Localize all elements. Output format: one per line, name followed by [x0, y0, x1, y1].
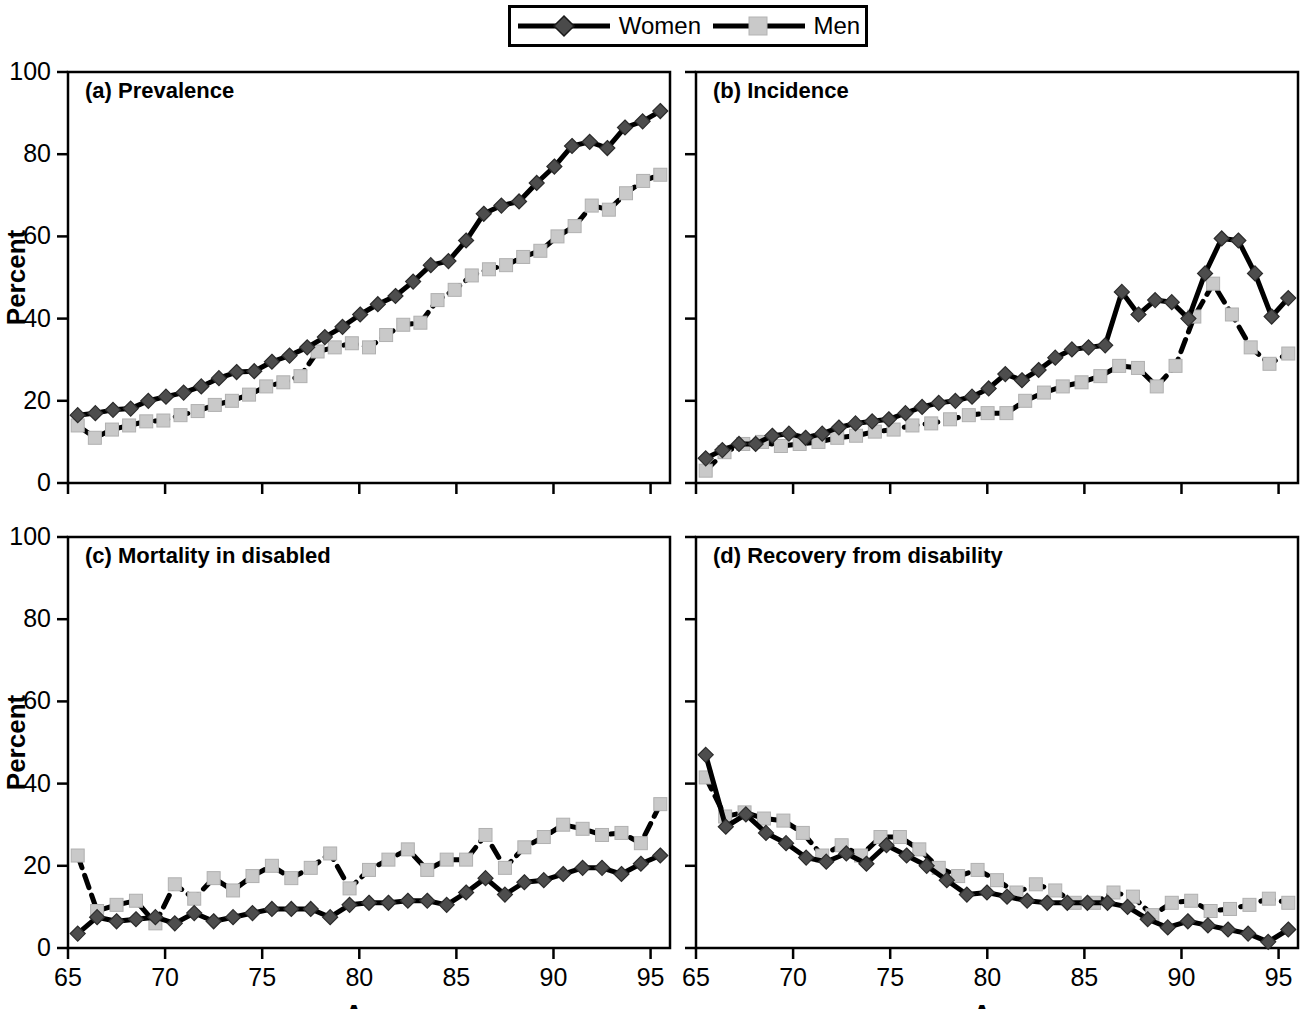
- data-point-marker: [991, 874, 1004, 887]
- data-point-marker: [906, 419, 919, 432]
- data-point-marker: [465, 269, 478, 282]
- data-point-marker: [602, 203, 615, 216]
- x-tick-label: 85: [1070, 963, 1098, 991]
- data-point-marker: [1221, 922, 1236, 937]
- data-point-marker: [796, 826, 809, 839]
- panel-a-plot: 020406080100Percent: [0, 55, 690, 500]
- panel-c-plot: 02040608010065707580859095AgePercent: [0, 520, 690, 1009]
- x-tick-label: 85: [442, 963, 470, 991]
- data-point-marker: [1160, 920, 1175, 935]
- data-point-marker: [282, 348, 297, 363]
- data-point-marker: [1243, 898, 1256, 911]
- data-point-marker: [191, 405, 204, 418]
- data-point-marker: [915, 399, 930, 414]
- data-point-marker: [88, 431, 101, 444]
- data-point-marker: [1165, 896, 1178, 909]
- data-point-marker: [284, 901, 299, 916]
- data-point-marker: [913, 843, 926, 856]
- legend-entry-women: Women: [516, 14, 701, 38]
- panel-d-plot: 65707580859095Age: [628, 520, 1308, 1009]
- data-point-marker: [382, 853, 395, 866]
- data-point-marker: [1000, 407, 1013, 420]
- legend-label-men: Men: [814, 14, 861, 38]
- x-axis-title: Age: [972, 999, 1021, 1009]
- data-point-marker: [157, 414, 170, 427]
- y-tick-label: 80: [23, 139, 51, 167]
- data-point-marker: [1081, 340, 1096, 355]
- data-point-marker: [304, 861, 317, 874]
- data-point-marker: [362, 895, 377, 910]
- data-point-marker: [1180, 914, 1195, 929]
- data-point-marker: [585, 199, 598, 212]
- chart-legend: Women Men: [508, 5, 868, 47]
- x-tick-label: 65: [682, 963, 710, 991]
- data-point-marker: [294, 370, 307, 383]
- data-point-marker: [88, 406, 103, 421]
- data-point-marker: [207, 872, 220, 885]
- data-point-marker: [1185, 894, 1198, 907]
- data-point-marker: [277, 376, 290, 389]
- data-point-marker: [397, 318, 410, 331]
- data-point-marker: [1094, 370, 1107, 383]
- data-point-marker: [925, 417, 938, 430]
- data-point-marker: [363, 341, 376, 354]
- panel-b-title: (b) Incidence: [713, 78, 849, 104]
- x-tick-label: 80: [345, 963, 373, 991]
- data-point-marker: [285, 872, 298, 885]
- data-point-marker: [1282, 896, 1295, 909]
- series-markers-women: [698, 747, 1296, 949]
- data-point-marker: [448, 283, 461, 296]
- data-point-marker: [595, 860, 610, 875]
- data-point-marker: [401, 843, 414, 856]
- panel-c-title: (c) Mortality in disabled: [85, 543, 331, 569]
- data-point-marker: [246, 870, 259, 883]
- panel-d-recovery-from-disability: 65707580859095Age (d) Recovery from disa…: [628, 520, 1308, 1009]
- data-point-marker: [71, 849, 84, 862]
- y-axis-title: Percent: [1, 694, 31, 790]
- data-point-marker: [123, 419, 136, 432]
- data-point-marker: [264, 901, 279, 916]
- data-point-marker: [421, 863, 434, 876]
- data-point-marker: [211, 371, 226, 386]
- x-tick-label: 90: [1168, 963, 1196, 991]
- data-point-marker: [582, 134, 597, 149]
- data-point-marker: [1282, 347, 1295, 360]
- x-tick-label: 95: [1265, 963, 1293, 991]
- data-point-marker: [1150, 380, 1163, 393]
- data-point-marker: [1029, 878, 1042, 891]
- data-point-marker: [893, 831, 906, 844]
- y-tick-label: 20: [23, 386, 51, 414]
- legend-label-women: Women: [619, 14, 701, 38]
- data-point-marker: [1207, 277, 1220, 290]
- data-point-marker: [460, 853, 473, 866]
- data-point-marker: [158, 389, 173, 404]
- data-point-marker: [536, 873, 551, 888]
- x-tick-label: 65: [54, 963, 82, 991]
- data-point-marker: [1019, 394, 1032, 407]
- panel-b-plot: [628, 55, 1308, 500]
- data-point-marker: [557, 818, 570, 831]
- data-point-marker: [944, 413, 957, 426]
- panel-a-prevalence: 020406080100Percent (a) Prevalence: [0, 55, 690, 500]
- data-point-marker: [1200, 918, 1215, 933]
- data-point-marker: [1263, 357, 1276, 370]
- data-point-marker: [551, 230, 564, 243]
- data-point-marker: [1244, 341, 1257, 354]
- data-point-marker: [615, 826, 628, 839]
- data-point-marker: [229, 365, 244, 380]
- x-axis-title: Age: [344, 999, 393, 1009]
- y-tick-label: 0: [37, 468, 51, 496]
- data-point-marker: [431, 294, 444, 307]
- data-point-marker: [420, 893, 435, 908]
- data-point-marker: [1224, 902, 1237, 915]
- data-point-marker: [188, 892, 201, 905]
- data-point-marker: [517, 250, 530, 263]
- x-tick-label: 80: [973, 963, 1001, 991]
- data-point-marker: [141, 393, 156, 408]
- data-point-marker: [381, 895, 396, 910]
- data-point-marker: [498, 861, 511, 874]
- data-point-marker: [440, 853, 453, 866]
- data-point-marker: [757, 812, 770, 825]
- data-point-marker: [1098, 338, 1113, 353]
- data-point-marker: [225, 394, 238, 407]
